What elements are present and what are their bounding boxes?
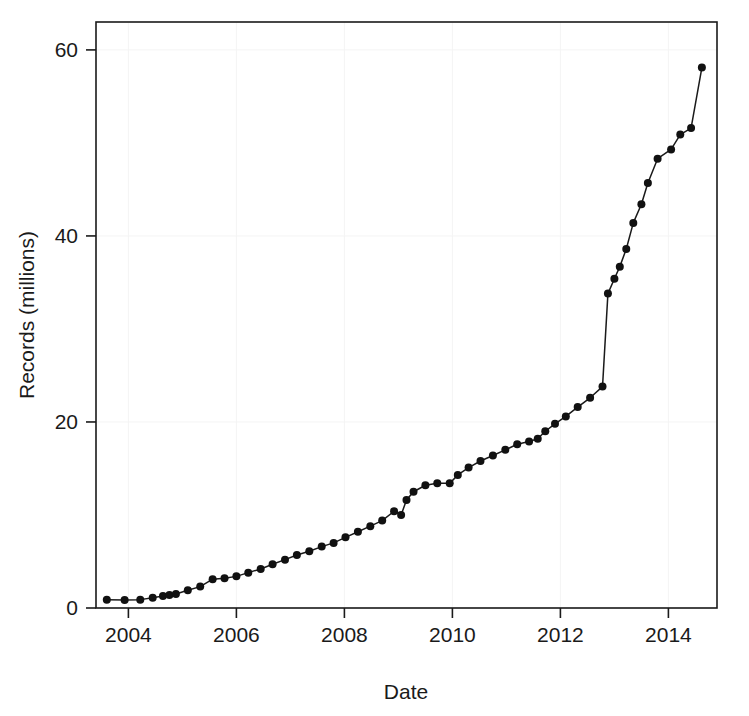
- data-point: [136, 596, 144, 604]
- data-point: [433, 479, 441, 487]
- data-point: [446, 479, 454, 487]
- data-point: [305, 547, 313, 555]
- data-point: [103, 596, 111, 604]
- plot-frame: [96, 22, 717, 608]
- data-point: [149, 594, 157, 602]
- data-point: [184, 586, 192, 594]
- line-chart: 0204060 200420062008201020122014 Date Re…: [0, 0, 749, 716]
- data-point: [410, 488, 418, 496]
- data-point: [232, 572, 240, 580]
- data-point: [318, 543, 326, 551]
- data-point: [293, 551, 301, 559]
- data-point: [541, 427, 549, 435]
- data-point: [121, 596, 129, 604]
- data-point: [366, 522, 374, 530]
- data-point: [397, 511, 405, 519]
- data-point: [574, 403, 582, 411]
- data-point: [622, 245, 630, 253]
- data-point: [390, 507, 398, 515]
- data-point: [209, 575, 217, 583]
- data-point: [599, 383, 607, 391]
- data-point: [476, 457, 484, 465]
- y-tick-label: 20: [55, 410, 78, 433]
- data-point: [644, 179, 652, 187]
- data-point: [513, 440, 521, 448]
- data-point: [421, 481, 429, 489]
- data-point: [698, 64, 706, 72]
- data-series-records: [103, 64, 706, 605]
- data-point: [604, 290, 612, 298]
- y-tick-label: 0: [66, 596, 78, 619]
- data-point: [244, 569, 252, 577]
- data-point: [562, 412, 570, 420]
- data-point: [616, 263, 624, 271]
- data-point: [378, 517, 386, 525]
- series-line-records: [107, 68, 702, 601]
- x-axis-title: Date: [384, 680, 428, 703]
- data-point: [525, 438, 533, 446]
- gridlines: [96, 22, 717, 608]
- data-point: [687, 124, 695, 132]
- data-point: [501, 446, 509, 454]
- data-point: [403, 496, 411, 504]
- data-point: [654, 155, 662, 163]
- data-point: [465, 464, 473, 472]
- data-point: [586, 394, 594, 402]
- data-point: [172, 590, 180, 598]
- data-point: [269, 560, 277, 568]
- chart-container: 0204060 200420062008201020122014 Date Re…: [0, 0, 749, 716]
- data-point: [534, 435, 542, 443]
- x-tick-label: 2010: [429, 623, 476, 646]
- y-axis-title: Records (millions): [15, 231, 38, 399]
- data-point: [637, 200, 645, 208]
- data-point: [281, 556, 289, 564]
- y-tick-label: 40: [55, 224, 78, 247]
- data-point: [629, 219, 637, 227]
- data-point: [354, 528, 362, 536]
- data-point: [221, 574, 229, 582]
- data-point: [676, 131, 684, 139]
- x-tick-label: 2004: [105, 623, 152, 646]
- x-tick-label: 2008: [321, 623, 368, 646]
- data-point: [489, 451, 497, 459]
- data-point: [257, 565, 265, 573]
- data-point: [341, 533, 349, 541]
- x-tick-label: 2006: [213, 623, 260, 646]
- x-tick-label: 2012: [537, 623, 584, 646]
- data-point: [196, 583, 204, 591]
- y-axis-ticks: 0204060: [55, 38, 96, 619]
- x-axis-ticks: 200420062008201020122014: [105, 608, 692, 646]
- data-point: [454, 471, 462, 479]
- data-point: [330, 539, 338, 547]
- y-tick-label: 60: [55, 38, 78, 61]
- data-point: [610, 275, 618, 283]
- x-tick-label: 2014: [645, 623, 692, 646]
- data-point: [667, 145, 675, 153]
- data-point: [551, 420, 559, 428]
